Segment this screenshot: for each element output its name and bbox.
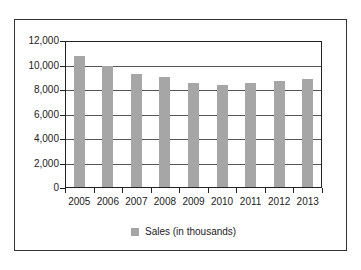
x-tick-label: 2007 <box>122 196 150 207</box>
y-tick <box>60 90 65 91</box>
y-tick-label: 10,000 <box>28 61 59 71</box>
plot-area <box>65 41 322 188</box>
y-tick-label: 2,000 <box>34 159 59 169</box>
x-tick-label: 2012 <box>265 196 293 207</box>
y-tick-label: 0 <box>53 183 59 193</box>
x-tick-label: 2013 <box>294 196 322 207</box>
y-tick <box>60 139 65 140</box>
x-tick <box>208 188 209 193</box>
x-tick <box>94 188 95 193</box>
y-tick <box>60 41 65 42</box>
y-tick <box>60 164 65 165</box>
x-tick-label: 2010 <box>208 196 236 207</box>
x-tick-label: 2011 <box>237 196 265 207</box>
x-tick <box>122 188 123 193</box>
x-tick <box>65 188 66 193</box>
x-tick-label: 2009 <box>180 196 208 207</box>
y-tick-label: 8,000 <box>34 85 59 95</box>
y-tick-label: 6,000 <box>34 110 59 120</box>
legend-swatch <box>131 228 139 236</box>
x-tick-label: 2008 <box>151 196 179 207</box>
legend-label: Sales (in thousands) <box>145 226 236 237</box>
x-tick <box>179 188 180 193</box>
x-tick <box>293 188 294 193</box>
y-tick <box>60 66 65 67</box>
x-tick-label: 2006 <box>94 196 122 207</box>
legend: Sales (in thousands) <box>131 226 236 237</box>
y-tick <box>60 115 65 116</box>
x-tick-label: 2005 <box>65 196 93 207</box>
y-tick-label: 4,000 <box>34 134 59 144</box>
x-tick <box>236 188 237 193</box>
x-tick <box>151 188 152 193</box>
x-tick <box>322 188 323 193</box>
y-tick-label: 12,000 <box>28 36 59 46</box>
x-tick <box>265 188 266 193</box>
